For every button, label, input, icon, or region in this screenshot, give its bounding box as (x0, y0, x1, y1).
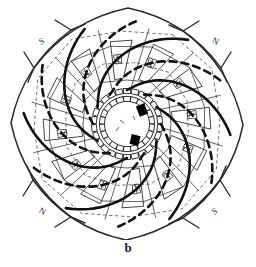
polygon-ring (34, 31, 220, 217)
bracket-hook-left (55, 217, 85, 227)
cardinal-label-bottom-right: S (210, 206, 219, 217)
cardinal-label-top-left: S (37, 36, 46, 47)
core-block (124, 147, 131, 152)
core-block (93, 108, 100, 116)
core-block (157, 116, 163, 124)
plan-drawing: SNNS (0, 0, 256, 240)
core-block (91, 124, 97, 132)
core-interior-mark (116, 116, 135, 131)
cardinal-label-group: SNNS (37, 35, 221, 217)
bracket-hook-right (221, 52, 231, 82)
core-block (131, 153, 139, 160)
core-block (130, 145, 138, 152)
core-block (154, 132, 161, 140)
bracket-hook-left (24, 52, 34, 82)
bracket-hook-right (23, 166, 33, 196)
core-block (99, 124, 105, 132)
cardinal-label-top-right: N (210, 35, 221, 47)
bracket-hook-left (220, 166, 230, 196)
core-block (131, 89, 139, 96)
corner-bracket-group (11, 8, 243, 240)
bracket-hook-right (55, 20, 85, 30)
core-block (116, 97, 124, 104)
figure-container: SNNS b (0, 0, 256, 267)
spiral-arm-group (24, 21, 231, 228)
radial-spoke-group (32, 29, 223, 220)
core-block (149, 117, 155, 125)
bracket-bottom-left (11, 20, 85, 227)
central-ring-group (91, 89, 162, 160)
polygon-ring-group (34, 31, 220, 217)
core-block (124, 97, 131, 102)
core-block (115, 89, 123, 96)
bracket-hook-left (169, 21, 199, 31)
polygon-ring (49, 46, 204, 201)
cardinal-label-bottom-left: N (37, 205, 48, 217)
figure-caption: b (0, 240, 256, 256)
core-block (115, 153, 123, 160)
bracket-hook-right (169, 218, 199, 228)
